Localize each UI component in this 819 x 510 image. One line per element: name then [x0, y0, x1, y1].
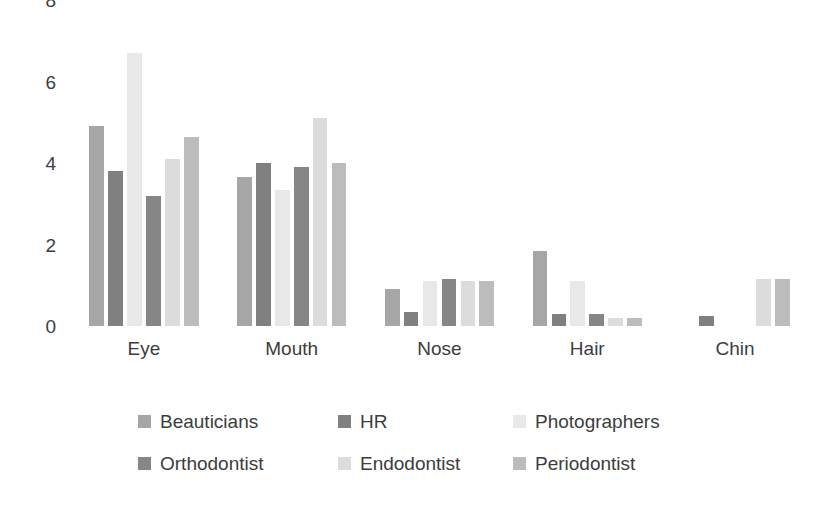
x-axis-labels: EyeMouthNoseHairChin	[70, 332, 809, 366]
legend-item-hr[interactable]: HR	[338, 412, 513, 431]
legend-swatch-icon	[138, 457, 151, 470]
legend-swatch-icon	[338, 457, 351, 470]
bar[interactable]	[237, 177, 252, 326]
bar-group-nose	[366, 0, 514, 326]
bar[interactable]	[385, 289, 400, 326]
y-tick-label: 4	[45, 154, 56, 173]
bar[interactable]	[756, 279, 771, 326]
bar[interactable]	[332, 163, 347, 326]
bar[interactable]	[552, 314, 567, 326]
legend-item-periodontist[interactable]: Periodontist	[513, 454, 698, 473]
bar[interactable]	[184, 137, 199, 326]
legend-label: Periodontist	[535, 454, 635, 473]
legend-swatch-icon	[138, 415, 151, 428]
legend-item-endodontist[interactable]: Endodontist	[338, 454, 513, 473]
bar[interactable]	[89, 126, 104, 326]
plot-area	[70, 0, 809, 326]
bar[interactable]	[275, 190, 290, 327]
bar-group-inner	[680, 0, 789, 326]
legend-label: Endodontist	[360, 454, 460, 473]
bar[interactable]	[570, 281, 585, 326]
x-axis-label-nose: Nose	[366, 332, 514, 366]
x-axis-label-chin: Chin	[661, 332, 809, 366]
legend-label: Photographers	[535, 412, 660, 431]
bar[interactable]	[461, 281, 476, 326]
bar[interactable]	[146, 196, 161, 326]
bar-group-eye	[70, 0, 218, 326]
bar[interactable]	[589, 314, 604, 326]
x-axis-label-mouth: Mouth	[218, 332, 366, 366]
bar-group-mouth	[218, 0, 366, 326]
legend-label: HR	[360, 412, 387, 431]
legend-swatch-icon	[338, 415, 351, 428]
bar[interactable]	[294, 167, 309, 326]
bar-group-inner	[385, 0, 494, 326]
bar[interactable]	[423, 281, 438, 326]
bar[interactable]	[404, 312, 419, 326]
y-tick-label: 6	[45, 72, 56, 91]
bar[interactable]	[479, 281, 494, 326]
bar[interactable]	[442, 279, 457, 326]
x-axis-label-hair: Hair	[513, 332, 661, 366]
y-tick-label: 0	[45, 317, 56, 336]
legend-item-beauticians[interactable]: Beauticians	[138, 412, 338, 431]
bar[interactable]	[127, 53, 142, 326]
x-axis-label-eye: Eye	[70, 332, 218, 366]
bar-groups	[70, 0, 809, 326]
bar-group-inner	[237, 0, 346, 326]
bar[interactable]	[165, 159, 180, 326]
bar[interactable]	[108, 171, 123, 326]
bar[interactable]	[256, 163, 271, 326]
bar[interactable]	[775, 279, 790, 326]
y-tick-label: 2	[45, 235, 56, 254]
bar-group-inner	[533, 0, 642, 326]
legend-label: Beauticians	[160, 412, 258, 431]
bar[interactable]	[699, 316, 714, 326]
bar[interactable]	[608, 318, 623, 326]
y-axis: 02468	[0, 0, 70, 390]
bar-group-hair	[513, 0, 661, 326]
plot-wrapper: 02468 EyeMouthNoseHairChin	[0, 0, 819, 390]
legend-item-photographers[interactable]: Photographers	[513, 412, 698, 431]
bar-group-chin	[661, 0, 809, 326]
bar-chart: 02468 EyeMouthNoseHairChin BeauticiansHR…	[0, 0, 819, 510]
y-tick-label: 8	[45, 0, 56, 10]
chart-legend: BeauticiansHRPhotographersOrthodontistEn…	[138, 400, 698, 484]
bar[interactable]	[533, 251, 548, 326]
legend-swatch-icon	[513, 415, 526, 428]
bar[interactable]	[627, 318, 642, 326]
legend-item-orthodontist[interactable]: Orthodontist	[138, 454, 338, 473]
bar-group-inner	[89, 0, 198, 326]
legend-swatch-icon	[513, 457, 526, 470]
legend-label: Orthodontist	[160, 454, 264, 473]
bar[interactable]	[313, 118, 328, 326]
